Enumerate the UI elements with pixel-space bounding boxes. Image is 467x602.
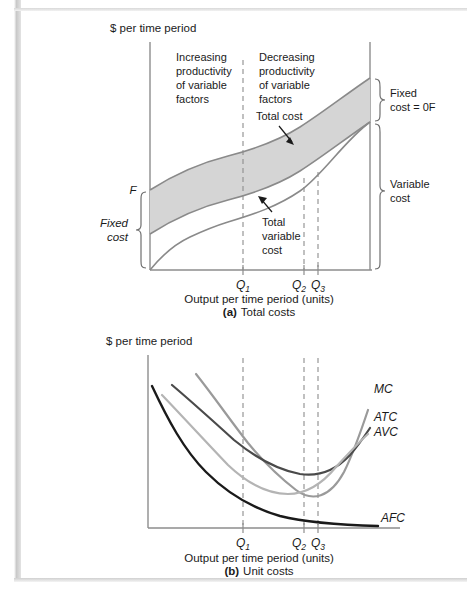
tvc-line-2: variable [262,230,301,242]
panel-a-fixed-cost-label-line2: cost [107,231,129,243]
panel-b-afc-label: AFC [380,511,405,525]
decreasing-line-4: factors [259,93,293,105]
tvc-line-1: Total [262,216,285,228]
panel-a-left-bracket [136,192,146,268]
decreasing-line-2: productivity [259,65,315,77]
decreasing-line-3: of variable [259,79,310,91]
panel-a-tvc-arrowhead [258,196,267,204]
panel-a-right-bracket-fixed [375,79,385,121]
panel-b-atc-label: ATC [373,410,397,424]
panel-b-q3-label: Q3 [311,536,325,552]
panel-a-variable-bracket-line2: cost [390,192,410,204]
tvc-line-3: cost [262,244,282,256]
panel-a-origin-f-label: F [129,184,137,196]
panel-b-afc-curve [152,386,378,526]
increasing-line-4: factors [176,93,210,105]
decreasing-line-1: Decreasing [259,51,315,63]
panel-a-y-axis-title: $ per time period [110,22,196,34]
panel-b-mc-curve [196,374,368,496]
panel-b-q1-label: Q1 [236,536,250,552]
panel-a-x-axis-title: Output per time period (units) [184,293,334,305]
increasing-line-1: Increasing [176,51,227,63]
panel-b-avc-label: AVC [373,425,398,439]
panel-a-caption: (a)Total costs [223,306,296,318]
panel-a-q2-label: Q2 [292,278,306,294]
panel-a-annotation-increasing-productivity: Total cost Increasing productivity of va… [176,51,232,105]
panel-b-mc-label: MC [374,382,393,396]
panel-a-q3-label: Q3 [311,278,325,294]
panel-b-q2-label: Q2 [292,536,306,552]
panel-a-total-costs: $ per time period Total cost Increasing … [100,22,436,318]
panel-a-variable-bracket-line1: Variable [390,178,430,190]
increasing-line-3: of variable [176,79,227,91]
panel-b-unit-costs: $ per time period MC ATC AVC AFC [106,335,405,577]
panel-a-fixed-bracket-line2: cost = 0F [390,101,436,113]
panel-a-annotation-decreasing-productivity: Decreasing productivity of variable fact… [259,51,315,105]
panel-a-total-variable-cost-label: Total variable cost [262,216,301,256]
figure-svg: $ per time period Total cost Increasing … [0,0,467,602]
panel-a-fixed-bracket-line1: Fixed [390,87,417,99]
panel-b-y-axis-title: $ per time period [106,335,192,347]
panel-a-total-cost-label: Total cost [256,110,302,122]
panel-a-fixed-cost-label-line1: Fixed [100,217,129,229]
panel-a-right-bracket-variable [375,124,385,269]
panel-b-avc-curve [162,395,368,494]
increasing-line-2: productivity [176,65,232,77]
figure-container: $ per time period Total cost Increasing … [0,0,467,602]
panel-b-x-axis-title: Output per time period (units) [184,552,334,564]
panel-a-q1-label: Q1 [236,278,250,294]
panel-b-caption: (b)Unit costs [224,565,293,577]
